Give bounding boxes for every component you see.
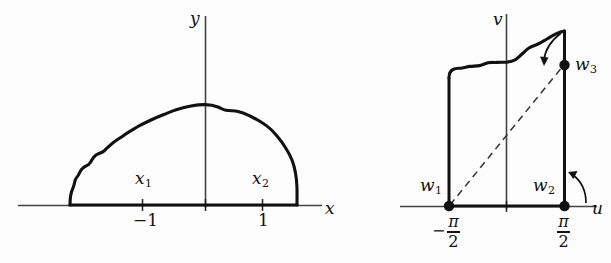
fraction-denominator: 2 bbox=[448, 233, 458, 250]
vertex-label-w1: w1 bbox=[420, 177, 442, 196]
right-panel-graphics bbox=[0, 0, 611, 263]
fraction-stack: π 2 bbox=[557, 214, 570, 250]
vertex-label-w2: w2 bbox=[533, 177, 555, 196]
u-axis-label: u bbox=[592, 200, 603, 217]
vertex-label-w3-sub: 3 bbox=[590, 63, 598, 76]
u-tick-label-pi-over-2: π 2 bbox=[557, 214, 570, 250]
v-axis-label: v bbox=[493, 11, 503, 28]
fraction-numerator: π bbox=[447, 214, 460, 231]
vertex-label-w3: w3 bbox=[575, 56, 597, 75]
vertex-dot-w2 bbox=[559, 201, 569, 211]
vertex-label-w2-sub: 2 bbox=[548, 184, 556, 197]
fraction-numerator: π bbox=[557, 214, 570, 231]
vertex-dot-w1 bbox=[444, 201, 454, 211]
vertex-label-w3-base: w bbox=[575, 54, 590, 74]
u-tick-label-minus-pi-over-2: − π 2 bbox=[432, 214, 460, 250]
angle-arc-w2 bbox=[573, 175, 586, 203]
vertex-dot-w3 bbox=[559, 60, 569, 70]
fraction-denominator: 2 bbox=[558, 233, 568, 250]
vertex-label-w1-sub: 1 bbox=[435, 184, 443, 197]
vertex-label-w1-base: w bbox=[420, 175, 435, 195]
conformal-mapping-figure: x y −1 1 x1 x2 bbox=[0, 0, 611, 263]
fraction-stack: π 2 bbox=[447, 214, 460, 250]
vertex-label-w2-base: w bbox=[533, 175, 548, 195]
angle-arc-w3-arrowhead bbox=[540, 57, 549, 67]
minus-sign: − bbox=[432, 223, 447, 240]
